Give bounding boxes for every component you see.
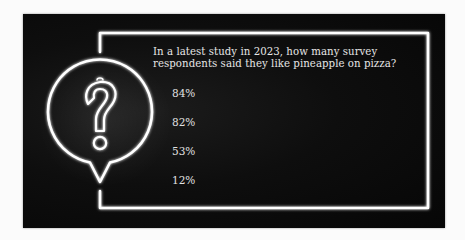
answer-option-82[interactable]: 82% — [172, 115, 195, 144]
question-line-2: respondents said they like pineapple on … — [153, 58, 423, 70]
answer-options: 84% 82% 53% 12% — [172, 86, 195, 202]
question-mark-icon — [86, 78, 115, 149]
answer-option-84[interactable]: 84% — [172, 86, 195, 115]
answer-option-12[interactable]: 12% — [172, 173, 195, 202]
answer-option-53[interactable]: 53% — [172, 144, 195, 173]
neon-frame-and-bubble — [0, 0, 465, 240]
quiz-question: In a latest study in 2023, how many surv… — [153, 46, 423, 70]
question-line-1: In a latest study in 2023, how many surv… — [153, 46, 423, 58]
